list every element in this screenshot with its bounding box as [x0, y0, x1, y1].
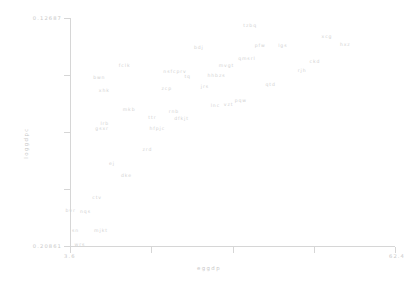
data-point: mvgt: [219, 63, 235, 68]
data-point: bdj: [194, 45, 204, 50]
data-point: jrs: [201, 83, 209, 88]
data-point: zrd: [142, 147, 152, 152]
data-point: wrs: [75, 242, 86, 247]
data-point: qmsrl: [238, 56, 255, 61]
scatter-plot-figure: 0.208610.126873.662.4 wrssnmjktbvrnqsctv…: [0, 0, 418, 287]
data-point: pfw: [255, 43, 266, 48]
data-point: rjh: [298, 68, 307, 73]
data-point: ckd: [309, 59, 320, 64]
y-axis-tick: [64, 75, 70, 76]
data-point: vzt: [224, 101, 234, 106]
x-axis-tick-label: 62.4: [389, 253, 405, 259]
data-point: ej: [109, 161, 115, 166]
data-point: zcp: [161, 86, 172, 91]
data-point: pqw: [235, 97, 247, 102]
y-axis-tick: [64, 189, 70, 190]
y-axis-title: loggdpc: [23, 127, 29, 158]
data-point: bvr: [65, 208, 75, 213]
data-point: rnb: [169, 109, 179, 114]
data-point: lrb: [100, 121, 109, 126]
data-point: xhk: [99, 88, 110, 93]
y-axis-tick-label: 0.12687: [33, 15, 62, 21]
data-point: lgs: [278, 42, 287, 47]
y-axis-tick: [64, 132, 70, 133]
data-point: dke: [121, 173, 132, 178]
data-point: tzbq: [243, 22, 257, 27]
data-point: mjkt: [94, 227, 108, 232]
x-axis-tick-label: 3.6: [64, 253, 76, 259]
data-point: qtd: [265, 82, 275, 87]
x-axis-tick: [233, 247, 234, 253]
data-point: nqs: [80, 209, 91, 214]
plot-area: [70, 18, 395, 246]
x-axis-tick: [314, 247, 315, 253]
x-axis-tick: [151, 247, 152, 253]
x-axis-title: eggdp: [0, 265, 418, 271]
data-point: hxz: [340, 42, 351, 47]
data-point: nsfcprv: [163, 68, 186, 73]
y-axis-tick: [64, 18, 70, 19]
data-point: hhbzs: [207, 73, 225, 78]
data-point: xcg: [322, 33, 333, 38]
data-point: dfkjt: [174, 116, 189, 121]
data-point: sn: [72, 228, 79, 233]
data-point: mkb: [123, 106, 136, 111]
data-point: ttr: [148, 114, 156, 119]
data-point: ctv: [92, 195, 102, 200]
data-point: bwn: [93, 74, 105, 79]
data-point: tq: [184, 73, 191, 78]
data-point: fclk: [119, 62, 131, 67]
y-axis-tick-label: 0.20861: [33, 243, 62, 249]
data-point: gsxr: [95, 126, 109, 131]
data-point: hfpjc: [149, 126, 165, 131]
data-point: lnc: [211, 102, 220, 107]
